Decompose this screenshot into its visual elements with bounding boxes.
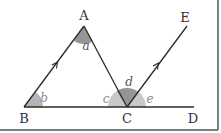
angle-label-d: d [125, 75, 133, 89]
angle-label-b: b [40, 91, 48, 105]
label-D: D [188, 111, 198, 126]
label-E: E [180, 10, 190, 25]
angle-label-e: e [146, 92, 153, 106]
segment-BA [24, 26, 84, 107]
angle-label-a: a [82, 39, 89, 53]
label-C: C [122, 111, 132, 126]
ray-CE [127, 26, 187, 107]
label-B: B [19, 111, 29, 126]
label-A: A [78, 8, 89, 23]
geometry-diagram: A B C D E a b c d e [0, 0, 221, 133]
angle-label-c: c [103, 92, 110, 106]
